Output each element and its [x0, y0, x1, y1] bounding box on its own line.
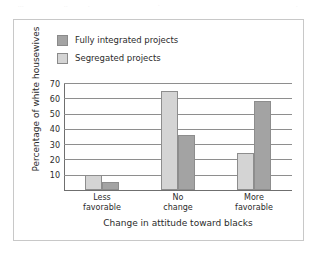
gridline: 70 — [64, 83, 292, 84]
bar-more-favorable-segregated-projects — [237, 153, 254, 190]
legend-item-segregated-projects: Segregated projects — [57, 49, 257, 67]
bar-more-favorable-fully-integrated-projects — [254, 101, 271, 190]
bar-less-favorable-fully-integrated-projects — [102, 182, 119, 190]
scan-artifact-strip: ... .. . · . — [0, 0, 317, 12]
x-axis-tick-label-line: More — [235, 193, 273, 203]
x-axis-tick-label-line: No — [163, 193, 192, 203]
legend-item-fully-integrated-projects: Fully integrated projects — [57, 31, 257, 49]
legend-swatch-icon-segregated — [57, 53, 68, 64]
y-axis-title: Percentage of white housewives — [31, 24, 41, 174]
legend-label-segregated: Segregated projects — [75, 54, 161, 63]
x-axis-tick-label-line: favorable — [83, 203, 121, 213]
x-axis-tick-label-line: Less — [83, 193, 121, 203]
bar-no-change-segregated-projects — [161, 91, 178, 190]
y-axis-tick-label: 10 — [50, 171, 60, 180]
artifact-fragment: .. — [64, 2, 68, 8]
y-axis-tick-label: 20 — [50, 155, 60, 164]
plot-area: 10203040506070 — [64, 83, 292, 191]
x-axis-category-labels: LessfavorableNochangeMorefavorable — [64, 193, 292, 217]
artifact-fragment: ... — [18, 2, 24, 8]
y-axis-tick-label: 50 — [50, 110, 60, 119]
bar-no-change-fully-integrated-projects — [178, 135, 195, 190]
gridline: 60 — [64, 98, 292, 99]
legend-swatch-icon-fully-integrated — [57, 35, 68, 46]
y-axis-tick-label: 70 — [50, 79, 60, 88]
x-axis-tick-label-line: change — [163, 203, 192, 213]
x-axis-title: Change in attitude toward blacks — [64, 218, 292, 228]
artifact-fragment: . — [88, 2, 90, 8]
chart-legend: Fully integrated projects Segregated pro… — [57, 31, 257, 67]
y-axis-tick-label: 30 — [50, 140, 60, 149]
x-axis-tick-label: Lessfavorable — [83, 193, 121, 212]
artifact-fragment: · — [158, 2, 160, 8]
x-axis-tick-label: Morefavorable — [235, 193, 273, 212]
legend-label-fully-integrated: Fully integrated projects — [75, 36, 178, 45]
x-axis-tick-label: Nochange — [163, 193, 192, 212]
y-axis-tick-label: 60 — [50, 94, 60, 103]
figure-frame: Fully integrated projects Segregated pro… — [13, 19, 304, 241]
bar-less-favorable-segregated-projects — [85, 175, 102, 190]
y-axis-tick-label: 40 — [50, 125, 60, 134]
x-axis-line — [64, 190, 292, 191]
x-axis-tick-label-line: favorable — [235, 203, 273, 213]
artifact-fragment: . — [296, 2, 298, 8]
